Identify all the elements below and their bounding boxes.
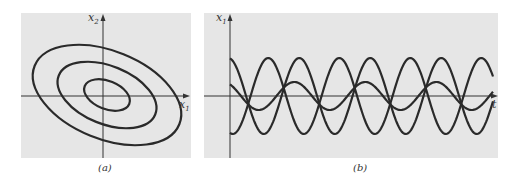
figure: x2 x1 (a) x1 t (b): [0, 0, 520, 182]
t-axis-label: t: [492, 98, 497, 111]
panel-a: x2 x1 (a): [18, 11, 196, 173]
panel-a-background: [21, 13, 191, 158]
caption-b: (b): [353, 162, 367, 173]
panel-b-background: [204, 13, 498, 158]
panel-b: x1 t (b): [204, 11, 498, 173]
caption-a: (a): [98, 162, 112, 173]
